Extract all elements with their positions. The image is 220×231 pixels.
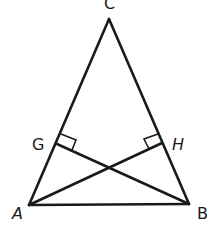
label-h: H — [172, 135, 184, 154]
triangle-diagram: C G H A B — [0, 0, 220, 231]
segment-ab — [29, 204, 189, 205]
segment-ca — [29, 19, 109, 205]
label-b: B — [197, 204, 208, 223]
label-a: A — [11, 204, 23, 223]
segment-bc — [109, 19, 189, 204]
label-g: G — [32, 135, 44, 154]
segment-bg-altitude — [57, 144, 189, 204]
segment-ah-altitude — [29, 143, 162, 205]
label-c: C — [104, 0, 115, 13]
